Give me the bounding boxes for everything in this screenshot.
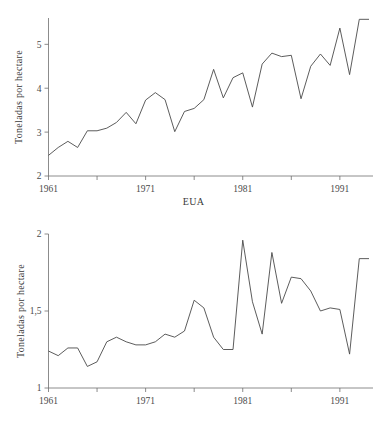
x-axis-tick-label: 1991 [330, 396, 349, 406]
y-axis-title: Toneladas por hectare [15, 264, 26, 358]
x-axis-tick-label: 1981 [233, 184, 252, 194]
y-axis-tick-label: 2 [37, 171, 42, 181]
chart-panel-eua: 23451961197119811991Toneladas por hectar… [0, 0, 387, 220]
x-axis-tick-label: 1991 [330, 184, 349, 194]
y-axis-tick-label: 1,5 [30, 306, 42, 316]
data-series-line [49, 240, 370, 366]
x-axis-tick-label: 1961 [39, 396, 58, 406]
y-axis-tick-label: 1 [37, 383, 42, 393]
y-axis-tick-label: 4 [37, 84, 42, 94]
line-chart-quenia: 11,521961197119811991Toneladas por hecta… [0, 220, 387, 440]
chart-panel-quenia: 11,521961197119811991Toneladas por hecta… [0, 220, 387, 440]
x-axis-tick-label: 1961 [39, 184, 58, 194]
chart-caption-eua: EUA [0, 196, 387, 207]
x-axis-tick-label: 1971 [136, 396, 155, 406]
y-axis-tick-label: 3 [37, 128, 42, 138]
data-series-line [49, 19, 370, 155]
y-axis-tick-label: 5 [37, 40, 42, 50]
x-axis-tick-label: 1981 [233, 396, 252, 406]
line-chart-eua: 23451961197119811991Toneladas por hectar… [0, 0, 387, 220]
y-axis-tick-label: 2 [37, 229, 42, 239]
y-axis-title: Toneladas por hectare [13, 50, 24, 144]
x-axis-tick-label: 1971 [136, 184, 155, 194]
figure-container: 23451961197119811991Toneladas por hectar… [0, 0, 387, 440]
